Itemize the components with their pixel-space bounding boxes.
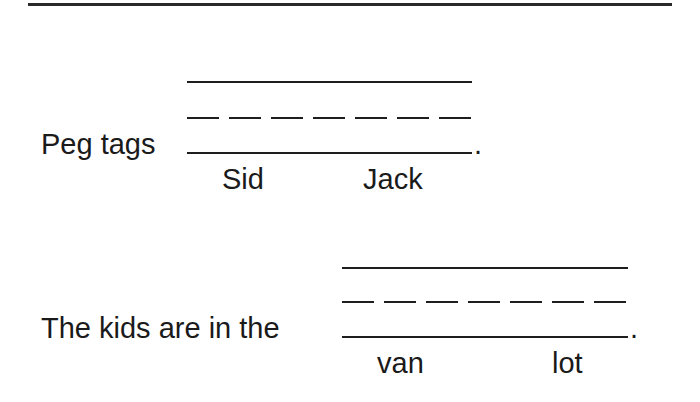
- answer-option[interactable]: lot: [552, 349, 583, 378]
- sentence-period: .: [474, 130, 482, 159]
- answer-option[interactable]: Sid: [222, 165, 264, 194]
- writing-line-midline-dashed: [187, 117, 472, 119]
- writing-line-top: [342, 267, 628, 269]
- answer-option[interactable]: Jack: [363, 165, 423, 194]
- answer-option[interactable]: van: [377, 349, 424, 378]
- answer-blank-baseline[interactable]: [187, 152, 472, 154]
- writing-line-top: [187, 81, 472, 83]
- sentence-prefix: The kids are in the: [41, 314, 280, 343]
- writing-line-midline-dashed: [342, 301, 628, 303]
- sentence-prefix: Peg tags: [41, 130, 155, 159]
- sentence-period: .: [630, 314, 638, 343]
- answer-blank-baseline[interactable]: [342, 336, 628, 338]
- top-divider-rule: [28, 3, 672, 6]
